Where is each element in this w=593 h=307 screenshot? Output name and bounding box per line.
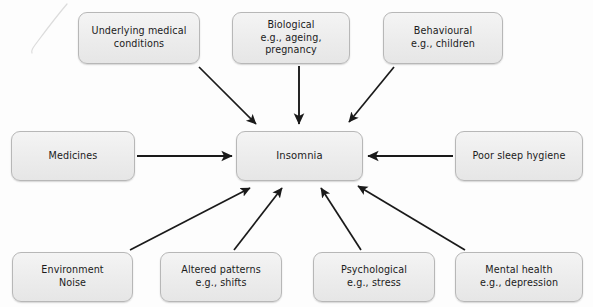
arrow-mental-to-insomnia [358, 186, 465, 250]
scan-artifact-stroke [32, 4, 67, 53]
arrow-psychological-to-insomnia [321, 188, 361, 250]
node-label: Medicines [44, 150, 103, 163]
node-label: Environment Noise [36, 264, 108, 289]
node-insomnia-center[interactable]: Insomnia [236, 131, 363, 181]
node-medicines[interactable]: Medicines [11, 131, 135, 181]
node-label: Biological e.g., ageing, pregnancy [233, 19, 349, 57]
node-behavioural[interactable]: Behavioural e.g., children [383, 12, 503, 64]
center-node-label: Insomnia [271, 149, 327, 162]
node-label: Underlying medical conditions [87, 25, 192, 50]
node-label: Psychological e.g., stress [336, 264, 412, 289]
node-altered-patterns[interactable]: Altered patterns e.g., shifts [160, 252, 282, 302]
arrow-behavioural-to-insomnia [349, 67, 394, 122]
node-environment-noise[interactable]: Environment Noise [12, 252, 133, 302]
node-label: Mental health e.g., depression [475, 264, 563, 289]
arrow-altered-to-insomnia [234, 188, 282, 250]
node-biological[interactable]: Biological e.g., ageing, pregnancy [232, 12, 350, 64]
node-label: Altered patterns e.g., shifts [176, 264, 266, 289]
node-label: Poor sleep hygiene [468, 150, 571, 163]
node-label: Behavioural e.g., children [406, 25, 480, 50]
arrow-environment-to-insomnia [130, 188, 250, 250]
node-psychological[interactable]: Psychological e.g., stress [313, 252, 435, 302]
node-mental-health[interactable]: Mental health e.g., depression [455, 252, 583, 302]
node-underlying-medical-conditions[interactable]: Underlying medical conditions [78, 12, 200, 64]
node-poor-sleep-hygiene[interactable]: Poor sleep hygiene [455, 131, 583, 181]
insomnia-causes-diagram: Underlying medical conditions Biological… [0, 0, 593, 307]
arrow-underlying-to-insomnia [199, 67, 256, 124]
